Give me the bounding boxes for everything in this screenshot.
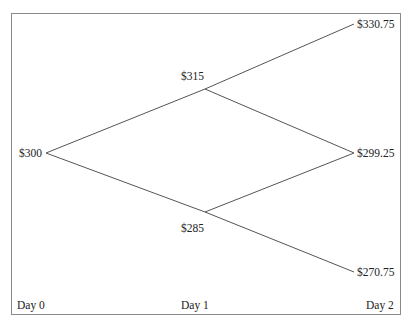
edge-300-285: [46, 153, 205, 212]
binomial-tree-edges: [0, 0, 414, 329]
node-day2-updown: $299.25: [357, 147, 394, 160]
edge-285-270: [205, 212, 354, 272]
axis-label-day1: Day 1: [181, 299, 209, 312]
axis-label-day0: Day 0: [17, 299, 45, 312]
node-day2-upup: $330.75: [357, 18, 394, 31]
node-day2-downdown: $270.75: [357, 266, 394, 279]
edge-300-315: [46, 89, 205, 153]
edge-285-299: [205, 153, 354, 212]
edge-315-299: [205, 89, 354, 153]
node-day1-down: $285: [181, 222, 204, 235]
axis-label-day2: Day 2: [366, 299, 394, 312]
edge-315-330: [205, 24, 354, 89]
node-day0: $300: [19, 147, 42, 160]
node-day1-up: $315: [181, 70, 204, 83]
